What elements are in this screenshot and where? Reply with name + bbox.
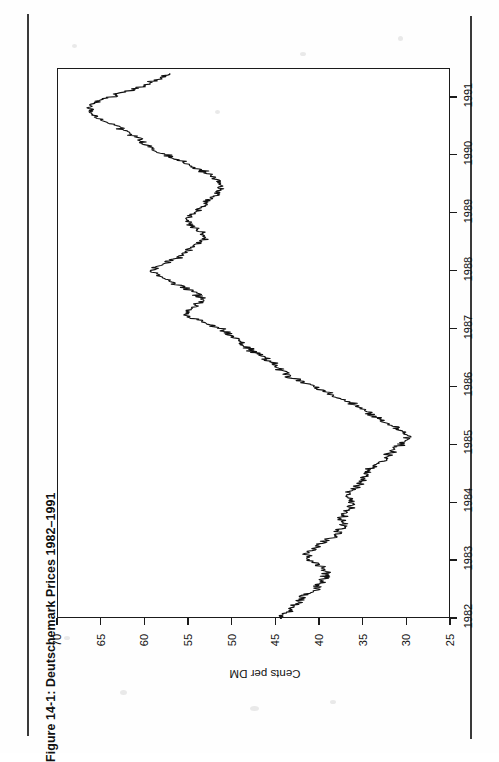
value-axis-tick bbox=[318, 618, 319, 625]
time-axis-label: 1985 bbox=[462, 427, 474, 457]
value-axis-tick bbox=[144, 618, 145, 625]
value-axis-tick bbox=[187, 618, 188, 625]
value-axis-label: 30 bbox=[400, 629, 412, 651]
time-axis-label: 1984 bbox=[462, 485, 474, 515]
time-axis-label: 1990 bbox=[462, 138, 474, 168]
chart-plot-area bbox=[57, 68, 450, 618]
time-axis-label: 1987 bbox=[462, 312, 474, 342]
value-axis-tick bbox=[275, 618, 276, 625]
time-axis-tick bbox=[450, 444, 457, 445]
time-axis-tick bbox=[450, 96, 457, 97]
scan-speck bbox=[72, 44, 77, 48]
time-axis-label: 1982 bbox=[462, 601, 474, 631]
value-axis-label: 25 bbox=[444, 629, 456, 651]
value-axis-tick bbox=[231, 618, 232, 625]
time-axis-tick bbox=[450, 502, 457, 503]
scan-speck bbox=[215, 110, 220, 114]
scan-speck bbox=[398, 36, 403, 41]
scan-speck bbox=[120, 690, 127, 695]
value-axis-tick bbox=[449, 618, 450, 625]
scan-speck bbox=[330, 700, 336, 704]
value-axis-label: 60 bbox=[138, 629, 150, 651]
value-axis-tick bbox=[362, 618, 363, 625]
value-axis-label: 65 bbox=[95, 629, 107, 651]
time-axis-tick bbox=[450, 386, 457, 387]
value-axis-label: 45 bbox=[269, 629, 281, 651]
scan-speck bbox=[64, 636, 70, 640]
time-axis-label: 1989 bbox=[462, 196, 474, 226]
time-axis-label: 1991 bbox=[462, 80, 474, 110]
time-axis-label: 1986 bbox=[462, 369, 474, 399]
time-axis-label: 1988 bbox=[462, 254, 474, 284]
value-axis-label: 35 bbox=[357, 629, 369, 651]
time-axis-label: 1983 bbox=[462, 543, 474, 573]
page-edge-rule-left bbox=[27, 14, 29, 736]
scan-speck bbox=[300, 52, 306, 56]
value-axis-title: Cents per DM bbox=[205, 666, 325, 682]
time-axis-tick bbox=[450, 154, 457, 155]
time-axis-tick bbox=[450, 559, 457, 560]
time-axis-tick bbox=[450, 212, 457, 213]
price-line-chart bbox=[58, 69, 451, 619]
value-axis-label: 55 bbox=[182, 629, 194, 651]
value-axis-label: 40 bbox=[313, 629, 325, 651]
value-axis-label: 50 bbox=[226, 629, 238, 651]
time-axis-tick bbox=[450, 328, 457, 329]
deutschemark-price-line bbox=[87, 74, 411, 619]
value-axis-tick bbox=[56, 618, 57, 625]
value-axis-tick bbox=[100, 618, 101, 625]
value-axis-label: 70 bbox=[51, 629, 63, 651]
time-axis-tick bbox=[450, 270, 457, 271]
value-axis-tick bbox=[406, 618, 407, 625]
scan-speck bbox=[250, 706, 259, 711]
time-axis-tick bbox=[450, 617, 457, 618]
